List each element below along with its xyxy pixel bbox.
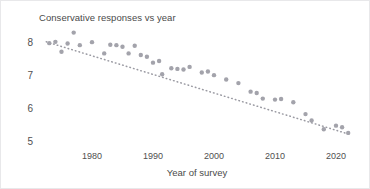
scatter-point <box>65 41 69 45</box>
scatter-point <box>126 51 130 55</box>
x-axis-title-text: Year of survey <box>167 167 227 178</box>
scatter-point <box>279 97 283 101</box>
scatter-point <box>169 66 173 70</box>
scatter-point <box>53 40 57 44</box>
scatter-point <box>102 51 106 55</box>
x-axis-tick-1980: 1980 <box>72 152 112 161</box>
scatter-point <box>72 30 76 34</box>
scatter-point <box>291 100 295 104</box>
y-axis-tick-6: 6 <box>17 104 33 114</box>
scatter-point <box>133 44 137 48</box>
x-axis-tick-2020: 2020 <box>316 152 356 161</box>
trendline <box>46 42 351 135</box>
scatter-point <box>78 43 82 47</box>
scatter-point <box>255 91 259 95</box>
scatter-point <box>47 41 51 45</box>
scatter-point <box>309 118 313 122</box>
scatter-points-group <box>47 30 350 135</box>
scatter-point <box>212 73 216 77</box>
plot-area: 8765 19801990200020102020 <box>1 1 370 189</box>
scatter-point <box>322 127 326 131</box>
scatter-point <box>181 67 185 71</box>
scatter-point <box>90 40 94 44</box>
scatter-point <box>340 125 344 129</box>
scatter-point <box>236 81 240 85</box>
x-axis-title: Year of survey <box>1 167 370 178</box>
scatter-point <box>187 65 191 69</box>
scatter-point <box>139 53 143 57</box>
scatter-point <box>145 54 149 58</box>
scatter-point <box>120 45 124 49</box>
y-axis-tick-7: 7 <box>17 71 33 81</box>
scatter-point <box>114 43 118 47</box>
scatter-point <box>334 123 338 127</box>
x-axis-tick-2010: 2010 <box>255 152 295 161</box>
scatter-point <box>273 97 277 101</box>
y-axis-tick-8: 8 <box>17 38 33 48</box>
scatter-point <box>108 43 112 47</box>
scatter-point <box>206 69 210 73</box>
chart-figure: Conservative responses vs year 8765 1980… <box>0 0 370 189</box>
scatter-point <box>59 50 63 54</box>
scatter-point <box>346 131 350 135</box>
y-axis-tick-5: 5 <box>17 137 33 147</box>
scatter-point <box>200 70 204 74</box>
scatter-point <box>248 89 252 93</box>
scatter-plot-svg <box>1 1 370 189</box>
scatter-point <box>175 67 179 71</box>
scatter-point <box>261 96 265 100</box>
x-axis-tick-1990: 1990 <box>133 152 173 161</box>
scatter-point <box>224 77 228 81</box>
scatter-point <box>303 112 307 116</box>
scatter-point <box>160 72 164 76</box>
scatter-point <box>157 59 161 63</box>
scatter-point <box>151 60 155 64</box>
x-axis-tick-2000: 2000 <box>194 152 234 161</box>
